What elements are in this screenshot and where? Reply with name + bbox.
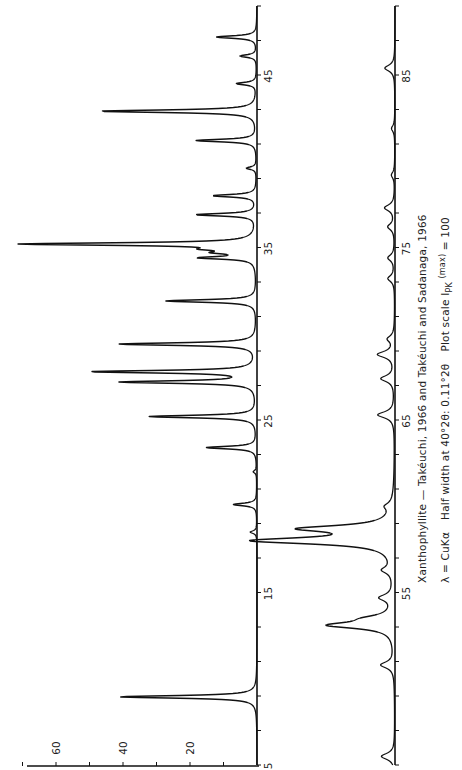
chart-title: Xanthophyllite — Takéuchi, 1966 and Také… (416, 214, 428, 583)
lower-trace-line (250, 6, 395, 765)
chart-axes (23, 6, 400, 766)
plot-scale-superscript: (max) (438, 254, 447, 279)
upper-trace-line (18, 6, 257, 765)
two-theta-tick-label: 55 (400, 587, 412, 600)
two-theta-tick-label: 5 (262, 763, 274, 770)
wavelength-label: λ = CuKα (439, 532, 451, 583)
plot-scale-label: Plot scale I (439, 293, 451, 352)
chart-subtitle: λ = CuKαHalf width at 40°2θ: 0.11°2θPlot… (438, 217, 454, 583)
plot-scale-subscript: PK (445, 282, 454, 292)
two-theta-tick-label: 75 (400, 242, 412, 255)
intensity-tick-label: 60 (50, 741, 62, 754)
two-theta-tick-label: 25 (262, 414, 274, 427)
two-theta-tick-label: 15 (262, 587, 274, 600)
intensity-tick-label: 40 (117, 741, 129, 754)
xrd-pattern-chart: 51525354555657585204060 (0, 0, 462, 770)
two-theta-tick-label: 65 (400, 414, 412, 427)
two-theta-tick-label: 35 (262, 242, 274, 255)
chart-traces (18, 6, 395, 765)
plot-scale-value: = 100 (439, 217, 451, 254)
two-theta-tick-label: 85 (400, 69, 412, 82)
half-width-label: Half width at 40°2θ: 0.11°2θ (439, 364, 451, 520)
two-theta-tick-label: 45 (262, 69, 274, 82)
intensity-tick-label: 20 (184, 741, 196, 754)
